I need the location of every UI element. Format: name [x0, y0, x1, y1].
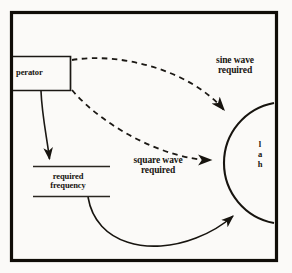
sine-wave-flow-label: sine wave required: [196, 56, 274, 76]
process-label-char-3: h: [253, 160, 267, 170]
frequency-to-process-flow-line: [88, 197, 233, 246]
square-wave-flow-label: square wave required: [112, 156, 204, 176]
square-wave-flow-line: [72, 90, 211, 160]
sine-wave-label-line-1: sine wave: [216, 55, 254, 65]
data-store-label-line-2: frequency: [50, 180, 85, 190]
square-wave-label-line-2: required: [141, 165, 175, 175]
data-store-label: required frequency: [26, 172, 110, 190]
external-entity-label: perator: [16, 68, 68, 77]
square-wave-label-line-1: square wave: [133, 155, 182, 165]
sine-wave-label-line-2: required: [218, 65, 252, 75]
diagram-frame: [12, 13, 277, 261]
required-frequency-flow-line: [41, 91, 50, 159]
process-bubble-label: l a h: [253, 140, 267, 169]
diagram-canvas: [0, 0, 292, 273]
diagram-page: perator sine wave required square wave r…: [0, 0, 292, 273]
